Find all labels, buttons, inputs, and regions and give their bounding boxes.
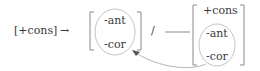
output-feature-cor: -cor <box>104 38 127 51</box>
output-right-bracket <box>137 12 141 50</box>
environment-feature-cor: -cor <box>206 50 229 63</box>
environment-right-bracket <box>240 5 244 65</box>
output-feature-ant: -ant <box>104 14 126 27</box>
environment-left-bracket <box>193 5 197 65</box>
environment-feature-cons: +cons <box>203 4 238 17</box>
environment-feature-ant: -ant <box>206 27 228 40</box>
output-left-bracket <box>90 12 94 50</box>
rule-input: [+cons] <box>14 24 57 37</box>
rewrite-arrow: → <box>60 24 69 37</box>
phonological-rule-diagram: [+cons] → -ant -cor / +cons -ant -cor <box>0 0 260 71</box>
environment-slash: / <box>151 24 155 37</box>
